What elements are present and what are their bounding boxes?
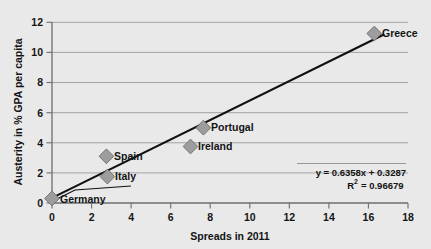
x-tick-label-2: 2 [89,211,95,223]
data-label-spain: Spain [114,150,143,162]
r-squared-exponent: 2 [354,178,358,185]
data-label-italy: Italy [115,170,136,182]
data-label-greece: Greece [382,27,418,39]
x-tick-label-6: 6 [168,211,174,223]
x-tick-label-16: 16 [363,211,375,223]
y-tick-label-4: 4 [37,137,43,149]
x-tick-label-8: 8 [207,211,213,223]
chart-canvas: 12 10 8 6 4 2 0 0 2 4 6 8 10 12 14 16 18… [0,0,431,249]
y-axis-title: Austerity in % GPA per capita [12,38,24,185]
x-axis-tick-labels: 0 2 4 6 8 10 12 14 16 18 [49,211,414,223]
regression-annotation: y = 0.6358x + 0.3287 R 2 = 0.96679 [297,164,406,192]
y-tick-label-8: 8 [37,76,43,88]
x-tick-label-14: 14 [323,211,335,223]
regression-equation: y = 0.6358x + 0.3287 [316,167,406,178]
scatter-chart-figure: 12 10 8 6 4 2 0 0 2 4 6 8 10 12 14 16 18… [0,0,431,249]
data-label-portugal: Portugal [211,121,254,133]
data-points [45,26,382,206]
data-point-italy[interactable] [100,169,115,184]
y-axis-ticks [47,22,53,203]
y-tick-label-10: 10 [31,46,43,58]
x-axis-title: Spreads in 2011 [190,230,270,242]
r-squared-value: = 0.96679 [361,180,404,191]
y-axis-tick-labels: 12 10 8 6 4 2 0 [31,16,43,209]
data-point-spain[interactable] [99,149,114,164]
data-point-ireland[interactable] [183,139,198,154]
x-tick-label-18: 18 [402,211,414,223]
x-tick-label-12: 12 [283,211,295,223]
y-tick-label-12: 12 [31,16,43,28]
y-tick-label-0: 0 [37,197,43,209]
data-label-ireland: Ireland [198,140,232,152]
data-point-portugal[interactable] [196,120,211,135]
y-tick-label-6: 6 [37,107,43,119]
x-tick-label-4: 4 [128,211,134,223]
x-tick-label-0: 0 [49,211,55,223]
x-tick-label-10: 10 [244,211,256,223]
data-label-germany: Germany [60,193,106,205]
data-point-greece[interactable] [367,26,382,41]
y-tick-label-2: 2 [37,167,43,179]
